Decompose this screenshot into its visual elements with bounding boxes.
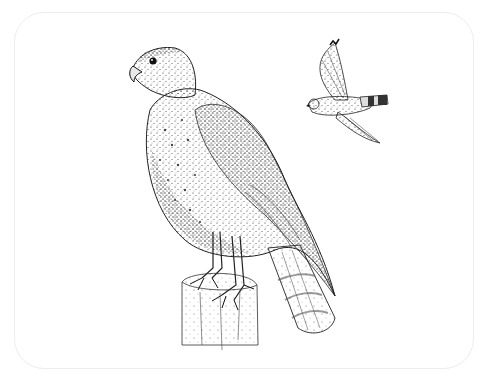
wooden-post [182,273,258,350]
eye [149,57,156,64]
hawk-illustration [0,0,497,392]
flying-hawk [306,39,388,143]
